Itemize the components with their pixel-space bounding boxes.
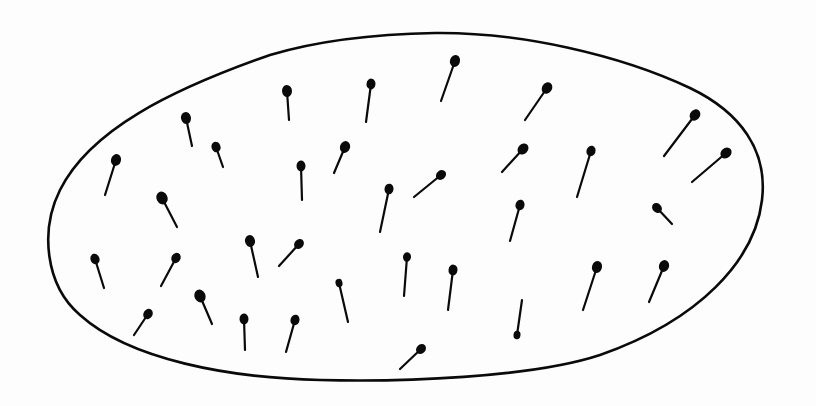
pin-mark <box>650 201 672 224</box>
ink-drawing <box>0 0 816 406</box>
pin-mark <box>577 145 597 197</box>
pin-mark <box>649 259 671 302</box>
oval-with-pins-illustration <box>0 0 816 406</box>
pin-mark <box>105 153 123 195</box>
pin-mark <box>400 342 428 369</box>
pin-mark <box>414 168 448 197</box>
pin-mark <box>366 78 376 122</box>
pin-mark <box>448 264 458 310</box>
pin-mark <box>441 54 462 101</box>
pin-mark <box>154 190 177 227</box>
pin-mark <box>502 141 531 172</box>
pin-mark <box>210 140 223 167</box>
pin-mark <box>380 183 395 232</box>
pin-mark <box>286 314 301 352</box>
pin-mark <box>583 260 604 310</box>
pin-mark <box>513 300 522 340</box>
pin-mark <box>335 278 348 322</box>
pin-mark <box>239 313 248 350</box>
pin-mark <box>692 145 734 182</box>
pin-mark <box>192 288 212 324</box>
pin-mark <box>180 111 192 146</box>
pin-mark <box>244 234 258 277</box>
pin-mark <box>89 253 104 288</box>
pin-mark <box>134 307 155 335</box>
pin-mark <box>525 80 555 120</box>
pin-mark <box>664 107 703 156</box>
pin-mark <box>279 237 306 266</box>
pin-marks <box>89 54 734 369</box>
pin-mark <box>161 251 183 286</box>
pin-mark <box>334 140 352 173</box>
pin-mark <box>282 85 293 120</box>
pin-mark <box>403 252 412 296</box>
pin-mark <box>296 160 305 200</box>
pin-mark <box>510 199 526 241</box>
